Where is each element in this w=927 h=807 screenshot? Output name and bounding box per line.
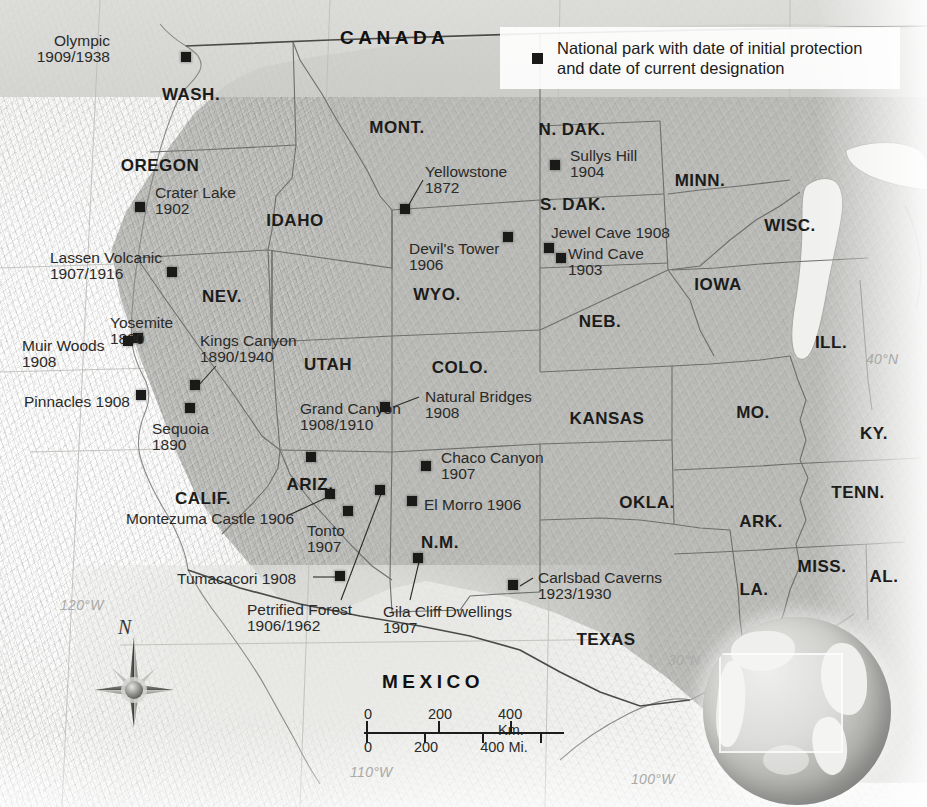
park-marker-olympic[interactable] xyxy=(181,52,191,62)
park-marker-el-morro-1906[interactable] xyxy=(407,496,417,506)
country-label: CANADA xyxy=(340,28,449,48)
scale-km-labels: 0 200 400 Km. xyxy=(364,706,564,726)
compass-star-icon xyxy=(88,620,180,738)
park-name: Montezuma Castle 1906 xyxy=(126,511,294,527)
state-label-mo: MO. xyxy=(736,404,770,422)
state-label-ky: KY. xyxy=(860,425,888,443)
park-dates: 1890 xyxy=(152,437,209,453)
state-label-la: LA. xyxy=(740,581,769,599)
scale-mi-200: 200 xyxy=(414,739,438,755)
park-name: Jewel Cave 1908 xyxy=(551,225,670,241)
park-label-pinnacles-1908: Pinnacles 1908 xyxy=(24,394,130,410)
park-marker-wind-cave[interactable] xyxy=(556,253,566,263)
scale-mi-labels: 0 200 400 Mi. xyxy=(364,739,564,759)
park-marker-natural-bridges[interactable] xyxy=(380,402,390,412)
state-label-ark: ARK. xyxy=(739,513,783,531)
park-marker-devil-s-tower[interactable] xyxy=(503,232,513,242)
state-label-utah: UTAH xyxy=(304,356,352,374)
park-name: Sullys Hill xyxy=(570,148,637,164)
park-label-el-morro-1906: El Morro 1906 xyxy=(424,497,521,513)
park-marker-yellowstone[interactable] xyxy=(400,204,410,214)
park-dates: 1908 xyxy=(425,405,532,421)
scale-km-0: 0 xyxy=(364,706,372,722)
state-label-sdak: S. DAK. xyxy=(540,196,606,214)
park-label-olympic: Olympic1909/1938 xyxy=(37,33,110,66)
park-label-montezuma-castle-1906: Montezuma Castle 1906 xyxy=(126,511,294,527)
park-label-devil-s-tower: Devil's Tower1906 xyxy=(409,241,500,274)
park-name: Chaco Canyon xyxy=(441,450,544,466)
legend-text: National park with date of initial prote… xyxy=(557,38,862,78)
park-marker-sequoia[interactable] xyxy=(185,403,195,413)
park-marker-pinnacles-1908[interactable] xyxy=(136,390,146,400)
park-name: Petrified Forest xyxy=(247,602,352,618)
park-label-kings-canyon: Kings Canyon1890/1940 xyxy=(200,333,297,366)
map-canvas: CANADAMEXICO WASH.OREGONIDAHOMONT.N. DAK… xyxy=(0,0,927,807)
park-label-petrified-forest: Petrified Forest1906/1962 xyxy=(247,602,352,635)
park-name: Pinnacles 1908 xyxy=(24,394,130,410)
graticule-label: 110°W xyxy=(350,765,393,780)
legend-park-swatch-icon xyxy=(532,53,543,64)
legend-line-1: National park with date of initial prote… xyxy=(557,38,862,58)
park-label-muir-woods: Muir Woods1908 xyxy=(22,338,104,371)
state-label-nm: N.M. xyxy=(421,534,459,552)
park-marker-carlsbad-caverns[interactable] xyxy=(508,580,518,590)
state-label-colo: COLO. xyxy=(432,359,488,377)
park-marker-jewel-cave-1908[interactable] xyxy=(544,243,554,253)
graticule-label: 120°W xyxy=(60,598,104,613)
park-dates: 1904 xyxy=(570,164,637,180)
graticule-label: 40°N xyxy=(866,352,898,367)
state-label-minn: MINN. xyxy=(675,172,726,190)
park-marker-tumacacori-1908[interactable] xyxy=(335,571,345,581)
park-dates: 1907 xyxy=(383,620,512,636)
park-name: Devil's Tower xyxy=(409,241,500,257)
park-marker-grand-canyon[interactable] xyxy=(306,452,316,462)
park-name: Crater Lake xyxy=(155,185,236,201)
country-label: MEXICO xyxy=(382,672,484,692)
park-marker-chaco-canyon[interactable] xyxy=(421,461,431,471)
state-label-tenn: TENN. xyxy=(831,484,885,502)
park-label-chaco-canyon: Chaco Canyon1907 xyxy=(441,450,544,483)
state-label-idaho: IDAHO xyxy=(266,212,323,230)
park-marker-lassen-volcanic[interactable] xyxy=(167,267,177,277)
park-marker-muir-woods[interactable] xyxy=(123,336,133,346)
park-dates: 1890 xyxy=(110,331,173,347)
state-label-wash: WASH. xyxy=(162,86,220,104)
globe-extent-rectangle xyxy=(719,653,843,753)
park-dates: 1908 xyxy=(22,354,104,370)
map-scale-bar: 0 200 400 Km. 0 200 400 Mi. xyxy=(364,706,564,759)
park-dates: 1907 xyxy=(307,539,345,555)
state-label-kansas: KANSAS xyxy=(570,410,645,428)
park-name: Natural Bridges xyxy=(425,389,532,405)
park-marker-petrified-forest[interactable] xyxy=(375,485,385,495)
state-label-oregon: OREGON xyxy=(121,157,200,175)
park-marker-sullys-hill[interactable] xyxy=(550,160,560,170)
graticule-label: 30°N xyxy=(668,653,700,668)
park-dates: 1923/1930 xyxy=(538,586,662,602)
park-name: Kings Canyon xyxy=(200,333,297,349)
globe-locator-inset xyxy=(703,617,891,805)
park-name: Gila Cliff Dwellings xyxy=(383,604,512,620)
park-label-tumacacori-1908: Tumacacori 1908 xyxy=(177,571,296,587)
park-label-sullys-hill: Sullys Hill1904 xyxy=(570,148,637,181)
park-name: Carlsbad Caverns xyxy=(538,570,662,586)
park-marker-crater-lake[interactable] xyxy=(135,202,145,212)
park-marker-tonto[interactable] xyxy=(343,506,353,516)
park-marker-montezuma-castle-1906[interactable] xyxy=(325,489,335,499)
park-dates: 1906/1962 xyxy=(247,618,352,634)
park-name: Yellowstone xyxy=(425,164,507,180)
park-dates: 1906 xyxy=(409,257,500,273)
state-label-calif: CALIF. xyxy=(175,490,231,508)
state-label-wisc: WISC. xyxy=(764,217,816,235)
park-label-crater-lake: Crater Lake1902 xyxy=(155,185,236,218)
scale-mi-0: 0 xyxy=(364,739,372,755)
compass-rose: N xyxy=(88,620,180,738)
park-name: El Morro 1906 xyxy=(424,497,521,513)
park-name: Sequoia xyxy=(152,421,209,437)
park-marker-gila-cliff-dwellings[interactable] xyxy=(413,553,423,563)
park-dates: 1890/1940 xyxy=(200,349,297,365)
park-marker-kings-canyon[interactable] xyxy=(190,380,200,390)
park-dates: 1907 xyxy=(441,466,544,482)
park-label-jewel-cave-1908: Jewel Cave 1908 xyxy=(551,225,670,241)
state-label-miss: MISS. xyxy=(798,558,847,576)
park-label-tonto: Tonto1907 xyxy=(307,523,345,556)
